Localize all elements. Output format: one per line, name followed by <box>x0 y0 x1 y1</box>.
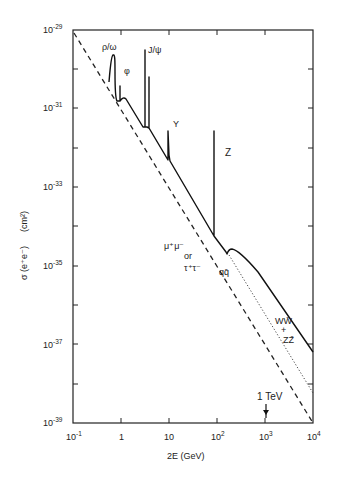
x-tick-1: 1 <box>119 432 124 442</box>
y-tick-1e-31: 10-31 <box>43 101 63 113</box>
y-tick-1e-33: 10-33 <box>43 180 63 192</box>
x-tick-100: 102 <box>211 430 225 442</box>
label-zz: ZZ̄ <box>283 335 294 345</box>
y-axis-title: σ (e⁺e⁻) (cm²) <box>19 211 29 280</box>
label-1tev: 1 TeV <box>257 391 283 402</box>
label-jpsi: J/ψ <box>148 45 161 55</box>
x-tick-0.1: 10-1 <box>66 430 82 442</box>
x-axis-title: 2E (GeV) <box>167 451 205 461</box>
mumu-dashed-line <box>74 33 313 423</box>
label-phi: φ <box>124 66 130 76</box>
hadronic-solid-curve <box>109 50 313 352</box>
label-z: Z <box>225 147 231 158</box>
label-mumu: μ⁺μ⁻ <box>164 241 184 251</box>
qq-dotted-line <box>229 255 313 393</box>
x-tick-10000: 104 <box>307 430 321 442</box>
y-axis-title-unit: (cm²) <box>19 211 29 232</box>
label-tautau: τ⁺τ⁻ <box>184 263 201 273</box>
x-tick-10: 10 <box>164 432 174 442</box>
y-tick-1e-37: 10-37 <box>43 338 63 350</box>
x-tick-labels: 10-1 1 10 102 103 104 <box>66 430 321 442</box>
y-tick-1e-29: 10-29 <box>43 23 63 35</box>
label-plus: + <box>281 325 286 335</box>
arrow-down-icon <box>263 404 269 418</box>
y-tick-1e-35: 10-35 <box>43 259 63 271</box>
y-tick-labels: 10-29 10-31 10-33 10-35 10-37 10-39 <box>43 23 63 428</box>
label-qq: qq̄ <box>219 267 229 277</box>
x-tick-1000: 103 <box>259 430 273 442</box>
label-or: or <box>184 251 192 261</box>
cross-section-chart: 10-29 10-31 10-33 10-35 10-37 10-39 10-1… <box>0 0 338 482</box>
label-upsilon: Υ <box>173 119 179 129</box>
label-rho-omega: ρ/ω <box>102 42 117 52</box>
y-tick-1e-39: 10-39 <box>43 416 63 428</box>
y-axis-title-sigma: σ (e⁺e⁻) <box>19 246 29 280</box>
